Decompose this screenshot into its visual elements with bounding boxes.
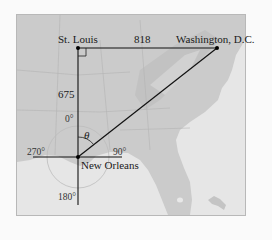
bearing-270-label: 270° bbox=[27, 148, 45, 158]
bearing-0-label: 0° bbox=[65, 115, 74, 125]
new-orleans-label: New Orleans bbox=[81, 160, 139, 171]
st-louis-label: St. Louis bbox=[58, 34, 98, 45]
distance-818-label: 818 bbox=[134, 34, 151, 45]
new-orleans-dot bbox=[76, 155, 80, 159]
theta-label: θ bbox=[84, 130, 89, 141]
bearing-90-label: 90° bbox=[113, 148, 126, 158]
bearing-180-label: 180° bbox=[58, 193, 76, 203]
washington-label: Washington, D.C. bbox=[176, 34, 255, 45]
washington-dot bbox=[215, 46, 219, 50]
st-louis-dot bbox=[76, 46, 80, 50]
distance-675-label: 675 bbox=[58, 89, 75, 100]
